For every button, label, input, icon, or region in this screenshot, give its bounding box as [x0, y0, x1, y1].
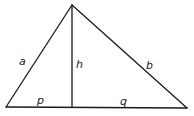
label-h: h: [76, 58, 83, 71]
triangle-diagram: a h b p q: [0, 0, 194, 116]
label-q: q: [120, 95, 127, 108]
side-b: [72, 5, 187, 108]
label-a: a: [19, 55, 26, 68]
label-p: p: [36, 94, 44, 107]
side-a: [6, 5, 72, 107]
triangle-svg: a h b p q: [0, 0, 194, 116]
label-b: b: [146, 59, 153, 72]
base-c: [6, 107, 187, 108]
